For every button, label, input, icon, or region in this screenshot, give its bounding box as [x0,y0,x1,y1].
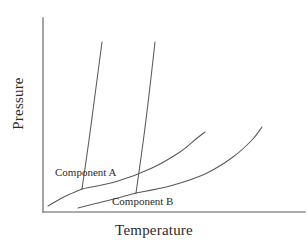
curve-component-b-fusion [136,42,155,193]
phase-boundary-curves [48,42,262,208]
curve-component-a-sublimation [48,189,82,206]
component-a-label: Component A [55,167,116,178]
plot-canvas [0,0,308,247]
y-axis-title: Pressure [11,74,26,134]
axes-group [43,18,305,212]
phase-diagram-figure: Pressure Temperature Component A Compone… [0,0,308,247]
component-b-label: Component B [112,196,173,207]
x-axis-title: Temperature [0,223,308,238]
